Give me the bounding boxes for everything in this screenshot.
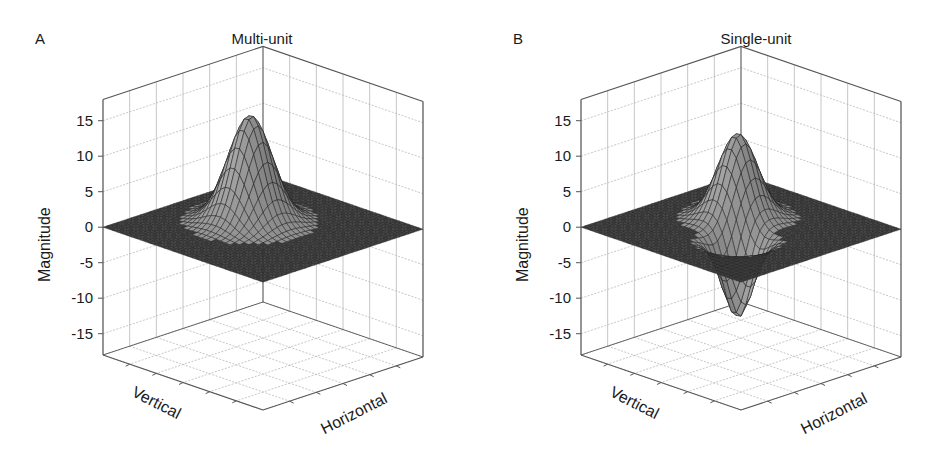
z-tick-label: -15 [53, 325, 93, 342]
surface-mesh [581, 134, 901, 316]
z-tick-label: -15 [531, 325, 571, 342]
z-tick-label: 15 [531, 112, 571, 129]
z-tick-label: -10 [531, 289, 571, 306]
panel-b: B Single-unit -15-10-5051015 Magnitude V… [478, 0, 937, 456]
z-tick-label: -5 [531, 254, 571, 271]
z-tick-label: 5 [53, 183, 93, 200]
z-tick-label: 10 [531, 147, 571, 164]
z-axis-title: Magnitude [514, 207, 532, 282]
z-tick-label: 5 [531, 183, 571, 200]
surface-mesh [103, 116, 423, 282]
z-tick-label: 0 [53, 218, 93, 235]
z-axis-title: Magnitude [36, 207, 54, 282]
z-tick-label: 0 [531, 218, 571, 235]
z-tick-label: -10 [53, 289, 93, 306]
panel-a: A Multi-unit -15-10-5051015 Magnitude Ve… [0, 0, 468, 456]
z-tick-label: 10 [53, 147, 93, 164]
z-tick-label: 15 [53, 112, 93, 129]
z-tick-label: -5 [53, 254, 93, 271]
